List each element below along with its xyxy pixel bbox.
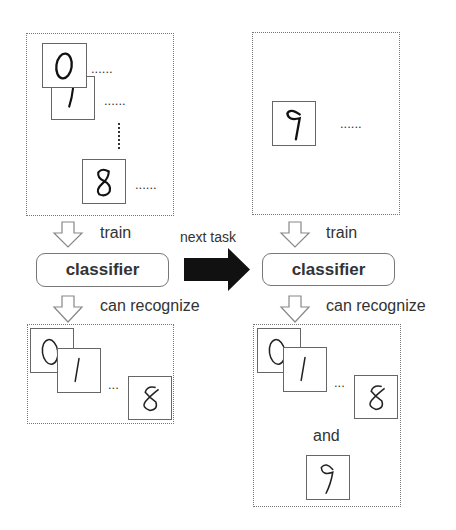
ellipsis: ... xyxy=(108,378,119,391)
digit-image-8 xyxy=(82,159,126,204)
digit-image-9 xyxy=(306,455,350,500)
vertical-ellipsis xyxy=(118,123,123,149)
ellipsis: ...... xyxy=(104,94,126,107)
ellipsis: ...... xyxy=(135,178,157,191)
down-arrow-icon xyxy=(279,221,311,248)
ellipsis: ...... xyxy=(91,62,113,75)
train-label: train xyxy=(326,225,357,241)
ellipsis: ... xyxy=(334,376,345,389)
can-recognize-label: can recognize xyxy=(100,298,200,314)
train-label: train xyxy=(100,225,131,241)
down-arrow-icon xyxy=(52,295,84,323)
down-arrow-icon xyxy=(279,295,311,323)
right-arrow-icon xyxy=(183,247,251,292)
digit-image-1 xyxy=(283,347,327,392)
digit-image-8 xyxy=(128,376,172,420)
digit-image-8 xyxy=(354,375,398,419)
can-recognize-label: can recognize xyxy=(326,298,426,314)
digit-image-0 xyxy=(42,43,87,88)
down-arrow-icon xyxy=(52,221,84,248)
ellipsis: ...... xyxy=(340,117,362,130)
next-task-label: next task xyxy=(180,230,236,244)
and-label: and xyxy=(313,428,340,444)
classifier-box: classifier xyxy=(36,253,169,287)
classifier-box: classifier xyxy=(262,253,395,286)
digit-image-9 xyxy=(272,101,316,146)
digit-image-1 xyxy=(57,348,101,393)
